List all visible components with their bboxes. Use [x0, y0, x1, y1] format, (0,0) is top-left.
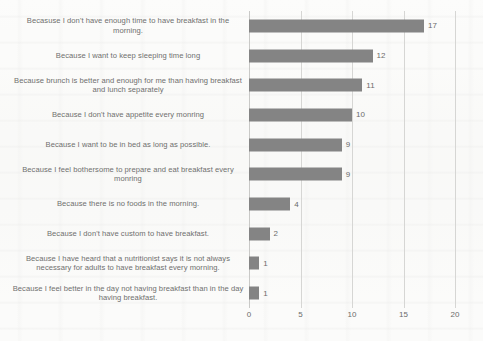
bar-group: 12: [249, 49, 386, 62]
bar-row: Because I feel bothersome to prepare and…: [249, 160, 455, 190]
bar-row: Because I have heard that a nutritionist…: [249, 249, 455, 279]
bar: [249, 108, 352, 121]
x-axis: 05101520: [249, 308, 455, 328]
category-label: Because I want to be in bed as long as p…: [12, 140, 244, 149]
bar: [249, 287, 259, 300]
bar-row: Because I don't have appetite every monr…: [249, 100, 455, 130]
bar-value-label: 12: [377, 52, 386, 60]
bar-value-label: 11: [366, 81, 374, 89]
bar-value-label: 17: [428, 22, 437, 30]
plot-area: Becasuse I don't have enough time to hav…: [249, 11, 455, 308]
bar: [249, 19, 424, 32]
x-tick-label: 20: [451, 311, 460, 319]
bar: [249, 138, 342, 151]
bar-value-label: 10: [356, 111, 365, 119]
category-label: Because I don't have custom to have brea…: [12, 229, 244, 238]
bar-group: 9: [249, 168, 350, 181]
category-label: Because I want to keep sleeping time lon…: [12, 51, 244, 60]
bar-group: 1: [249, 287, 268, 300]
x-tick-label: 15: [399, 311, 408, 319]
bar-group: 17: [249, 19, 437, 32]
bar: [249, 198, 290, 211]
bar-row: Because I don't have custom to have brea…: [249, 219, 455, 249]
x-tick-label: 0: [247, 311, 251, 319]
category-label: Because there is no foods in the morning…: [12, 199, 244, 208]
bar-group: 2: [249, 227, 278, 240]
bar-group: 11: [249, 79, 375, 92]
bar-value-label: 9: [346, 170, 350, 178]
bar-row: Because brunch is better and enough for …: [249, 70, 455, 100]
bar-value-label: 9: [346, 141, 350, 149]
bar-value-label: 1: [263, 259, 267, 267]
bar-row: Because there is no foods in the morning…: [249, 189, 455, 219]
bar-row: Because I want to keep sleeping time lon…: [249, 41, 455, 71]
bar-row: Because I want to be in bed as long as p…: [249, 130, 455, 160]
x-tick-label: 10: [348, 311, 357, 319]
bar: [249, 227, 270, 240]
bar-group: 10: [249, 108, 365, 121]
bar-value-label: 4: [294, 200, 298, 208]
bar-group: 4: [249, 198, 299, 211]
horizontal-bar-chart: Becasuse I don't have enough time to hav…: [0, 0, 483, 341]
bar-value-label: 2: [274, 230, 278, 238]
bar-row: Becasuse I don't have enough time to hav…: [249, 11, 455, 41]
gridline-20: [455, 11, 456, 308]
bar: [249, 168, 342, 181]
bar: [249, 257, 259, 270]
category-label: Becasuse I don't have enough time to hav…: [12, 16, 244, 35]
bar-group: 1: [249, 257, 268, 270]
category-label: Because I feel better in the day not hav…: [12, 284, 244, 303]
bar-row: Because I feel better in the day not hav…: [249, 278, 455, 308]
bar-value-label: 1: [263, 289, 267, 297]
category-label: Because I have heard that a nutritionist…: [12, 254, 244, 273]
category-label: Because I don't have appetite every monr…: [12, 110, 244, 119]
bar-group: 9: [249, 138, 350, 151]
x-tick-label: 5: [298, 311, 302, 319]
bar: [249, 79, 362, 92]
category-label: Because brunch is better and enough for …: [12, 76, 244, 95]
bar: [249, 49, 373, 62]
category-label: Because I feel bothersome to prepare and…: [12, 165, 244, 184]
